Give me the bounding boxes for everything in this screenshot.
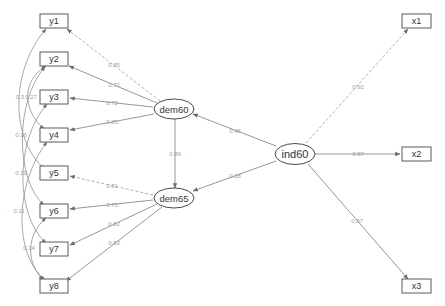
svg-text:y1: y1 [49,16,59,26]
dem60-loadings: 0.85 0.72 0.72 0.85 [67,29,160,130]
cov-label-y3-y7: 0.19 [15,170,27,176]
label-ind60-x1: 0.92 [352,84,364,90]
svg-text:y4: y4 [49,130,59,140]
node-y5[interactable]: y5 [40,166,68,180]
dem65-loadings: 0.81 0.75 0.82 0.83 [66,176,162,281]
svg-text:y6: y6 [49,206,59,216]
label-dem65-y5: 0.81 [106,183,118,189]
svg-text:y3: y3 [49,92,59,102]
label-ind60-x3: 0.87 [351,218,363,224]
svg-text:x3: x3 [412,281,422,291]
node-dem65[interactable]: dem65 [154,188,194,208]
structural-paths: 0.45 0.18 0.89 [169,114,276,191]
label-dem65-y7: 0.82 [108,221,120,227]
label-dem60-dem65: 0.89 [169,151,181,157]
node-y7[interactable]: y7 [40,242,68,256]
cov-label-y2-y4: 0.27 [25,94,37,100]
label-dem65-y6: 0.75 [106,202,118,208]
label-ind60-dem65: 0.18 [229,173,241,179]
node-y3[interactable]: y3 [40,90,68,104]
label-dem60-y4: 0.85 [106,119,118,125]
svg-text:y7: y7 [49,244,59,254]
cov-label-y6-y8: 0.34 [23,245,35,251]
svg-text:dem60: dem60 [159,104,188,115]
label-ind60-x2: 0.97 [352,151,364,157]
label-dem60-y3: 0.72 [106,100,118,106]
svg-text:x2: x2 [412,149,422,159]
label-dem65-y8: 0.83 [108,240,120,246]
node-y1[interactable]: y1 [40,14,68,28]
svg-text:y8: y8 [49,281,59,291]
cov-label-y2-y6: 0.36 [15,132,27,138]
node-x2[interactable]: x2 [402,147,431,161]
svg-text:y5: y5 [49,168,59,178]
node-y6[interactable]: y6 [40,204,68,218]
label-dem60-y2: 0.72 [108,82,120,88]
svg-text:y2: y2 [49,54,59,64]
svg-text:dem65: dem65 [159,193,188,204]
ind60-loadings: 0.92 0.97 0.87 [306,29,408,279]
cov-label-y1-y5: 0.3 [16,94,25,100]
node-y4[interactable]: y4 [40,128,68,142]
node-y2[interactable]: y2 [40,52,68,66]
observed-nodes-x: x1 x2 x3 [402,14,431,293]
label-ind60-dem60: 0.45 [229,128,241,134]
cov-label-y4-y8: 0.11 [13,208,25,214]
svg-text:x1: x1 [412,16,422,26]
figure-caption: ████ ███ █████ ██████ [140,300,320,306]
node-ind60[interactable]: ind60 [275,144,315,165]
node-x1[interactable]: x1 [402,14,431,28]
svg-text:ind60: ind60 [282,148,309,160]
node-y8[interactable]: y8 [40,279,68,293]
sem-path-diagram: 0.3 0.27 0.36 0.19 0.11 0.34 0.85 0.72 0… [0,0,445,306]
node-x3[interactable]: x3 [402,279,431,293]
node-dem60[interactable]: dem60 [154,99,194,119]
observed-nodes-y: y1 y2 y3 y4 y5 y6 y7 y8 [40,14,68,293]
label-dem60-y1: 0.85 [108,62,120,68]
